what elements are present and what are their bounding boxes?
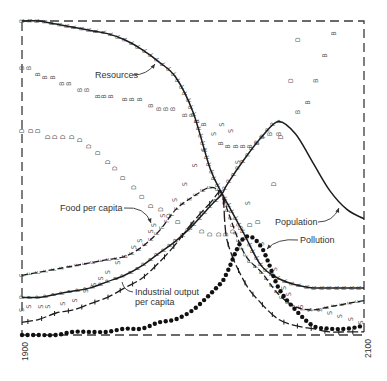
printout-marker-s: S <box>227 129 235 133</box>
pollution-dot <box>131 327 135 331</box>
printout-marker-d: D <box>34 128 42 133</box>
pollution-dot <box>20 333 24 337</box>
x-tick-end: 2100 <box>363 339 373 358</box>
printout-marker-f: F <box>246 259 254 263</box>
pollution-dot <box>148 324 152 328</box>
printout-marker-s: S <box>114 261 122 265</box>
printout-marker-s: S <box>181 182 189 186</box>
pollution-dot <box>142 326 146 330</box>
printout-marker-b: B <box>294 110 302 114</box>
pollution-dot <box>230 257 234 261</box>
printout-marker-b: B <box>65 82 73 86</box>
pollution-dot <box>352 325 356 329</box>
pollution-dot <box>281 294 285 298</box>
printout-marker-b: B <box>136 97 144 101</box>
printout-marker-d: D <box>254 219 262 224</box>
printout-marker-b: B <box>107 94 115 98</box>
printout-marker-d: D <box>59 135 67 140</box>
printout-marker-d: D <box>294 37 302 42</box>
printout-marker-d: D <box>68 135 76 140</box>
pollution-dot <box>210 290 214 294</box>
label-industrial-output-line2: per capita <box>135 297 175 307</box>
pollution-dot <box>153 322 157 326</box>
printout-marker-b: B <box>147 104 155 108</box>
pollution-dot <box>174 317 178 321</box>
pollution-dot <box>240 237 244 241</box>
pollution-dot <box>42 333 46 337</box>
pollution-dot <box>267 263 271 267</box>
printout-marker-b: B <box>330 31 338 35</box>
printout-marker-s: S <box>285 292 293 296</box>
pollution-dot <box>70 330 74 334</box>
printout-marker-s: S <box>150 223 158 227</box>
pollution-dot <box>53 333 57 337</box>
x-tick-start: 1900 <box>20 342 30 361</box>
printout-marker-s: S <box>130 245 138 249</box>
printout-marker-d: D <box>206 232 214 237</box>
pollution-dot <box>194 306 198 310</box>
printout-marker-d: D <box>18 128 26 133</box>
pollution-dot <box>336 327 340 331</box>
label-food-per-capita: Food per capita <box>60 203 123 213</box>
pollution-dot <box>250 235 254 239</box>
pollution-dot <box>158 320 162 324</box>
printout-marker-d: D <box>111 166 119 171</box>
pollution-dot <box>98 330 102 334</box>
pollution-dot <box>180 315 184 319</box>
pollution-dot <box>92 330 96 334</box>
printout-marker-d: D <box>270 182 278 187</box>
pollution-dot <box>189 309 193 313</box>
pollution-dot <box>198 302 202 306</box>
pollution-dot <box>109 329 113 333</box>
printout-marker-d: D <box>147 204 155 209</box>
pollution-dot <box>278 289 282 293</box>
printout-marker-s: S <box>336 314 344 318</box>
pollution-dot <box>271 274 275 278</box>
pollution-dot <box>25 333 29 337</box>
pollution-dot <box>341 327 345 331</box>
printout-marker-d: D <box>198 229 206 234</box>
pollution-dot <box>48 333 52 337</box>
pollution-dot <box>164 319 168 323</box>
printout-marker-d: D <box>85 144 93 149</box>
pollution-dot <box>120 327 124 331</box>
printout-marker-s: S <box>159 214 167 218</box>
printout-marker-d: D <box>138 194 146 199</box>
pollution-dot <box>237 242 241 246</box>
pollution-dot <box>285 298 289 302</box>
pollution-dot <box>115 328 119 332</box>
printout-marker-d: D <box>51 135 59 140</box>
pollution-dot <box>347 326 351 330</box>
printout-marker-s: S <box>218 123 226 127</box>
printout-marker-s: S <box>210 132 218 136</box>
pollution-dot <box>59 332 63 336</box>
pollution-dot <box>76 329 80 333</box>
pollution-dot <box>273 279 277 283</box>
pollution-dot <box>224 273 228 277</box>
arrow-pollution-icon <box>267 240 298 249</box>
pollution-dot <box>214 286 218 290</box>
printout-marker-s: S <box>71 298 79 302</box>
printout-marker-b: B <box>49 75 57 79</box>
printout-marker-s: S <box>136 239 144 243</box>
printout-marker-b: B <box>200 122 208 126</box>
pollution-dot <box>202 298 206 302</box>
pollution-dot <box>255 239 259 243</box>
printout-marker-b: B <box>169 107 177 111</box>
resources-line <box>22 21 364 288</box>
pollution-dot <box>226 268 230 272</box>
printout-marker-d: D <box>157 207 165 212</box>
pollution-dot <box>233 252 237 256</box>
printout-marker-s: S <box>191 163 199 167</box>
pollution-dot <box>64 331 68 335</box>
pollution-dot <box>330 327 334 331</box>
printout-markers: RRRRRRRRRRRRRRRRRRRRRRRRRRRRRRRRRRRRRRRR… <box>18 18 365 324</box>
printout-marker-b: B <box>321 53 329 57</box>
arrow-food-icon <box>124 208 151 223</box>
printout-marker-b: B <box>128 97 136 101</box>
pollution-dot <box>126 326 130 330</box>
printout-marker-d: D <box>130 185 138 190</box>
pollution-dot <box>235 247 239 251</box>
pollution-dot <box>276 284 280 288</box>
pollution-dot <box>319 326 323 330</box>
